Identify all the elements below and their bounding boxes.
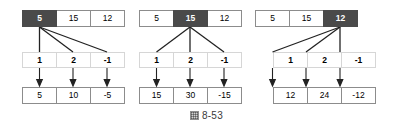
kernel-cell[interactable]: 1 xyxy=(22,52,57,68)
kernel-row-group-1: 1 2 -1 xyxy=(22,52,125,68)
output-cell[interactable]: 10 xyxy=(56,87,91,104)
kernel-cell[interactable]: 2 xyxy=(173,52,208,68)
kernel-cell[interactable]: -1 xyxy=(341,52,376,68)
input-cell[interactable]: 12 xyxy=(90,10,125,27)
step-group-2: 5 15 12 1 2 -1 15 30 -15 xyxy=(139,10,249,95)
input-cell[interactable]: 15 xyxy=(289,10,324,27)
figure-caption-text: 8-53 xyxy=(202,110,223,121)
input-cell[interactable]: 12 xyxy=(207,10,242,27)
output-cell[interactable]: 30 xyxy=(173,87,208,104)
kernel-cell[interactable]: 2 xyxy=(56,52,91,68)
output-cell[interactable]: -15 xyxy=(207,87,242,104)
figure-caption: 8-53 xyxy=(0,110,413,121)
input-cell[interactable]: 5 xyxy=(139,10,174,27)
kernel-row-group-2: 1 2 -1 xyxy=(139,52,242,68)
step-group-3: 5 15 12 1 2 -1 12 24 -12 xyxy=(255,10,365,95)
output-cell[interactable]: 24 xyxy=(307,87,342,104)
output-cell[interactable]: 5 xyxy=(22,87,57,104)
input-cell-highlighted[interactable]: 12 xyxy=(323,10,358,27)
kernel-cell[interactable]: -1 xyxy=(90,52,125,68)
kernel-cell[interactable]: 1 xyxy=(139,52,174,68)
output-cell[interactable]: -5 xyxy=(90,87,125,104)
input-row-group-2: 5 15 12 xyxy=(139,10,242,27)
input-cell-highlighted[interactable]: 5 xyxy=(22,10,57,27)
output-cell[interactable]: 12 xyxy=(273,87,308,104)
kernel-cell[interactable]: 2 xyxy=(307,52,342,68)
kernel-row-group-3: 1 2 -1 xyxy=(273,52,376,68)
input-row-group-3: 5 15 12 xyxy=(255,10,358,27)
output-cell[interactable]: -12 xyxy=(341,87,376,104)
step-group-1: 5 15 12 1 2 -1 5 10 -5 xyxy=(22,10,132,95)
input-cell[interactable]: 5 xyxy=(255,10,290,27)
input-row-group-1: 5 15 12 xyxy=(22,10,125,27)
image-placeholder-glyph-icon xyxy=(190,111,199,120)
kernel-cell[interactable]: 1 xyxy=(273,52,308,68)
kernel-cell[interactable]: -1 xyxy=(207,52,242,68)
input-cell-highlighted[interactable]: 15 xyxy=(173,10,208,27)
output-row-group-2: 15 30 -15 xyxy=(139,87,242,104)
input-cell[interactable]: 15 xyxy=(56,10,91,27)
output-row-group-1: 5 10 -5 xyxy=(22,87,125,104)
output-row-group-3: 12 24 -12 xyxy=(273,87,376,104)
output-cell[interactable]: 15 xyxy=(139,87,174,104)
figure-8-53: 5 15 12 1 2 -1 5 10 -5 xyxy=(0,0,413,131)
